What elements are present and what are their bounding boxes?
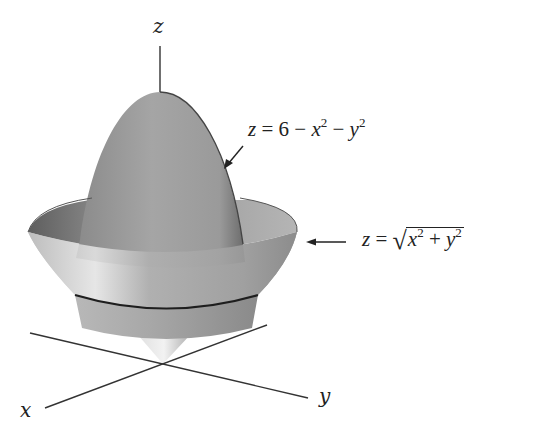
cone-equation: z = √x2 + y2: [362, 226, 464, 256]
paraboloid-arrow: [228, 146, 243, 164]
eq2-radicand: x2 + y2: [406, 227, 464, 250]
eq2-x-exp: 2: [417, 225, 424, 240]
eq2-lhs: z: [362, 227, 370, 251]
z-axis-label: z: [153, 14, 164, 38]
eq2-y-exp: 2: [455, 225, 462, 240]
eq1-const: 6: [279, 117, 290, 141]
eq1-lhs: z: [248, 117, 256, 141]
x-axis-label: x: [20, 398, 31, 422]
eq1-x: x: [311, 117, 320, 141]
sqrt-icon: √: [393, 226, 407, 255]
surfaces-diagram: [0, 0, 533, 437]
y-axis-label: y: [319, 384, 330, 408]
eq1-x-exp: 2: [321, 115, 328, 130]
eq2-x: x: [408, 227, 417, 251]
eq1-y-exp: 2: [359, 115, 366, 130]
paraboloid-equation: z = 6 − x2 − y2: [248, 117, 365, 142]
eq2-y: y: [446, 227, 455, 251]
paraboloid-surface: [76, 92, 245, 268]
arrowhead-icon: [306, 239, 316, 246]
eq1-y: y: [350, 117, 359, 141]
